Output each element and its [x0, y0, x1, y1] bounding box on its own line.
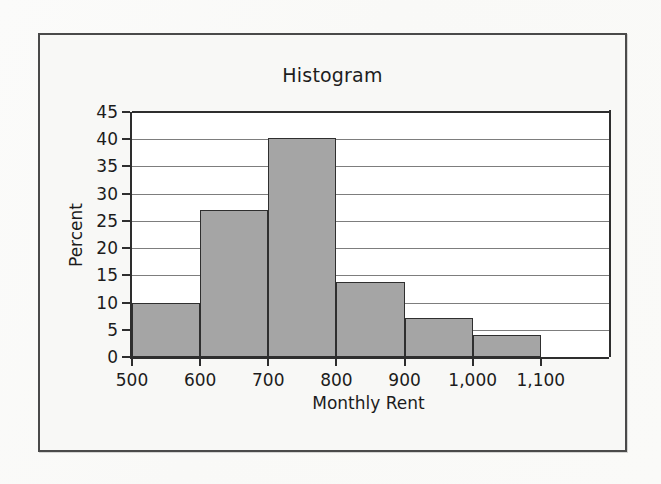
histogram-bar — [473, 335, 541, 357]
gridline-30 — [132, 194, 609, 195]
x-tick-label-1100: 1,100 — [517, 370, 566, 390]
y-tick-label-15: 15 — [96, 265, 118, 285]
chart-title: Histogram — [40, 64, 625, 86]
y-tick-35 — [122, 165, 130, 167]
x-tick-label-800: 800 — [320, 370, 352, 390]
y-tick-40 — [122, 138, 130, 140]
plot-inner: 051015202530354045 5006007008009001,0001… — [132, 112, 609, 357]
x-tick-1000 — [472, 357, 474, 366]
gridline-45 — [132, 111, 609, 113]
y-tick-10 — [122, 302, 130, 304]
figure-frame: Histogram Percent 051015202530354045 500… — [38, 33, 627, 452]
plot-area: 051015202530354045 5006007008009001,0001… — [130, 112, 609, 359]
y-tick-label-5: 5 — [107, 320, 118, 340]
y-tick-20 — [122, 247, 130, 249]
x-tick-900 — [404, 357, 406, 366]
y-tick-45 — [122, 111, 130, 113]
x-tick-label-1000: 1,000 — [448, 370, 497, 390]
histogram-bar — [405, 318, 473, 357]
y-tick-30 — [122, 193, 130, 195]
x-tick-1100 — [540, 357, 542, 366]
y-tick-label-10: 10 — [96, 293, 118, 313]
y-tick-0 — [122, 356, 130, 358]
y-tick-label-30: 30 — [96, 184, 118, 204]
x-tick-800 — [335, 357, 337, 366]
x-tick-label-700: 700 — [252, 370, 284, 390]
y-tick-label-35: 35 — [96, 156, 118, 176]
y-tick-15 — [122, 274, 130, 276]
gridline-35 — [132, 166, 609, 167]
y-tick-label-0: 0 — [107, 347, 118, 367]
x-tick-label-500: 500 — [116, 370, 148, 390]
y-axis-title: Percent — [64, 112, 88, 357]
x-tick-label-600: 600 — [184, 370, 216, 390]
y-tick-25 — [122, 220, 130, 222]
x-tick-500 — [131, 357, 133, 366]
y-tick-5 — [122, 329, 130, 331]
gridline-40 — [132, 139, 609, 140]
y-tick-label-20: 20 — [96, 238, 118, 258]
plot-right-spine — [609, 110, 611, 357]
y-tick-label-45: 45 — [96, 102, 118, 122]
x-tick-label-900: 900 — [388, 370, 420, 390]
histogram-bar — [268, 138, 336, 357]
y-tick-label-25: 25 — [96, 211, 118, 231]
histogram-bar — [200, 210, 268, 357]
y-axis-title-label: Percent — [66, 203, 86, 267]
histogram-bar — [336, 282, 404, 357]
x-tick-600 — [199, 357, 201, 366]
x-axis-title: Monthly Rent — [130, 393, 607, 413]
histogram-bar — [132, 303, 200, 357]
x-tick-700 — [267, 357, 269, 366]
y-tick-label-40: 40 — [96, 129, 118, 149]
